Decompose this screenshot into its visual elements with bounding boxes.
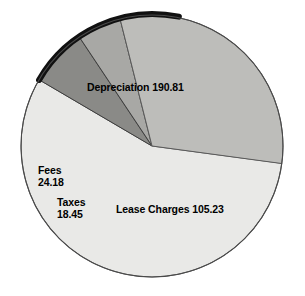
pie-chart-figure: Depreciation 190.81 Lease Charges 105.23… <box>0 0 305 296</box>
slice-label-fees-name: Fees <box>38 164 62 176</box>
slice-label-taxes-name: Taxes <box>57 196 86 208</box>
slice-label-fees: Fees24.18 <box>38 165 64 188</box>
slice-label-taxes-value: 18.45 <box>57 208 83 220</box>
slice-label-fees-value: 24.18 <box>38 176 64 188</box>
slice-label-taxes: Taxes18.45 <box>57 197 86 220</box>
pie-chart-canvas <box>0 0 305 296</box>
slice-label-lease-charges: Lease Charges 105.23 <box>116 204 224 216</box>
slice-label-depreciation: Depreciation 190.81 <box>87 82 184 94</box>
